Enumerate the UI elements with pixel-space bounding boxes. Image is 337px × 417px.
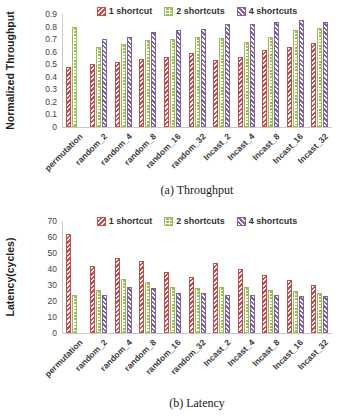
bar-group [262,221,279,333]
y-tick-label: 0.9 [0,9,57,19]
bar-1-shortcut [164,272,169,333]
y-tick-label: 0 [0,328,57,338]
bar-group [262,14,279,127]
legend: 1 shortcut2 shortcuts4 shortcuts [62,6,332,16]
bar-1-shortcut [311,43,316,127]
bar-1-shortcut [213,263,218,333]
diagonal-down-hatch-swatch-icon [237,217,246,226]
bar-group [238,221,255,333]
bar-4-shortcuts [127,287,132,333]
bar-4-shortcuts [151,288,156,333]
bar-4-shortcuts [299,296,304,333]
bar-1-shortcut [287,280,292,333]
throughput-panel: Normalized Throughput00.10.20.30.40.50.6… [0,0,337,205]
bar-2-shortcuts [145,40,150,127]
bar-group [90,221,107,333]
bar-group [164,14,181,127]
bar-1-shortcut [90,64,95,127]
bar-4-shortcuts [250,24,255,127]
y-tick-label: 0.3 [0,84,57,94]
bar-2-shortcuts [195,288,200,333]
bar-2-shortcuts [195,37,200,127]
bar-group [139,221,156,333]
y-axis-line [62,14,63,128]
bar-group [238,14,255,127]
y-tick-label: 50 [0,248,57,258]
y-tick-label: 0.6 [0,47,57,57]
figure: Normalized Throughput00.10.20.30.40.50.6… [0,0,337,417]
bar-4-shortcuts [201,29,206,127]
bar-2-shortcuts [96,47,101,127]
bar-group [164,221,181,333]
bar-group [90,14,107,127]
bar-2-shortcuts [170,39,175,127]
bar-group [115,14,132,127]
bar-2-shortcuts [121,279,126,333]
bar-4-shortcuts [274,295,279,333]
latency-panel: Latency(cycles)010203040506070permutatio… [0,205,337,417]
bar-4-shortcuts [176,293,181,333]
bar-2-shortcuts [72,27,77,127]
bar-1-shortcut [90,266,95,333]
latency-caption: (b) Latency [62,396,332,411]
legend: 1 shortcut2 shortcuts4 shortcuts [62,216,332,226]
bar-group [115,221,132,333]
bar-1-shortcut [115,258,120,333]
bar-4-shortcuts [323,22,328,127]
bar-4-shortcuts [323,296,328,333]
bar-4-shortcuts [102,295,107,333]
bar-2-shortcuts [121,44,126,127]
legend-label: 4 shortcuts [249,6,298,16]
bar-1-shortcut [164,57,169,127]
bar-4-shortcuts [151,32,156,127]
throughput-plot: Normalized Throughput00.10.20.30.40.50.6… [0,0,337,205]
y-tick-label: 10 [0,312,57,322]
bar-2-shortcuts [317,28,322,127]
y-tick-label: 30 [0,280,57,290]
bar-2-shortcuts [219,287,224,333]
x-category-label: permutation [44,338,85,379]
horizontal-dash-swatch-icon [164,7,173,16]
legend-item: 1 shortcut [97,6,153,16]
legend-item: 2 shortcuts [164,216,225,226]
bar-2-shortcuts [268,290,273,333]
legend-label: 1 shortcut [109,6,153,16]
diagonal-up-hatch-swatch-icon [97,7,106,16]
bar-4-shortcuts [250,295,255,333]
bar-1-shortcut [189,53,194,127]
y-tick-label: 60 [0,232,57,242]
legend-item: 2 shortcuts [164,6,225,16]
latency-plot: Latency(cycles)010203040506070permutatio… [0,205,337,417]
y-tick-label: 0.5 [0,59,57,69]
bar-1-shortcut [189,277,194,333]
bar-1-shortcut [287,47,292,127]
legend-item: 4 shortcuts [237,6,298,16]
bar-group [213,14,230,127]
bar-4-shortcuts [127,37,132,127]
bar-4-shortcuts [176,30,181,127]
bar-1-shortcut [66,234,71,333]
y-tick-label: 0.8 [0,22,57,32]
bar-group [66,221,83,333]
bar-2-shortcuts [145,282,150,333]
bar-group [139,14,156,127]
bar-2-shortcuts [293,291,298,333]
bar-2-shortcuts [293,30,298,127]
bar-4-shortcuts [274,22,279,127]
y-tick-label: 70 [0,216,57,226]
y-tick-label: 0 [0,122,57,132]
horizontal-dash-swatch-icon [164,217,173,226]
bar-2-shortcuts [317,293,322,333]
x-category-label: permutation [44,132,85,173]
bar-2-shortcuts [72,295,77,333]
bar-group [287,221,304,333]
bar-4-shortcuts [201,293,206,333]
bar-4-shortcuts [225,24,230,127]
bar-2-shortcuts [244,287,249,333]
bar-2-shortcuts [268,37,273,127]
x-axis-line [62,333,332,334]
legend-label: 2 shortcuts [176,6,225,16]
bar-1-shortcut [213,60,218,127]
legend-label: 2 shortcuts [176,216,225,226]
bar-group [311,221,328,333]
